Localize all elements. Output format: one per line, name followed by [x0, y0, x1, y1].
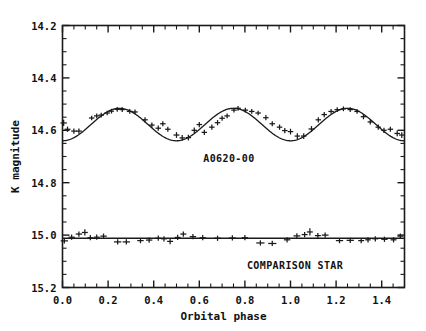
x-tick-label-0.6: 0.6: [190, 294, 209, 306]
light-curve-plot: 0.00.20.40.60.81.01.21.414.214.414.614.8…: [0, 0, 426, 331]
series-comparison: [61, 228, 404, 246]
x-tick-label-0: 0.0: [53, 294, 72, 306]
x-axis-title: Orbital phase: [180, 310, 266, 323]
y-tick-label-15: 15.0: [31, 229, 56, 241]
y-tick-label-14.6: 14.6: [31, 124, 56, 136]
y-tick-label-15.2: 15.2: [31, 282, 56, 294]
y-tick-label-14.8: 14.8: [31, 177, 56, 189]
y-axis-title: K magnitude: [9, 120, 22, 193]
y-tick-label-14.2: 14.2: [31, 20, 56, 32]
x-tick-label-1.4: 1.4: [372, 294, 391, 306]
annotation-comparison-label: COMPARISON STAR: [247, 260, 344, 271]
fit-curve-target: [63, 108, 405, 140]
series-target: [60, 106, 404, 141]
fit-curves: [63, 108, 405, 238]
x-tick-label-1: 1.0: [281, 294, 300, 306]
y-tick-label-14.4: 14.4: [31, 72, 56, 84]
x-tick-label-0.4: 0.4: [144, 294, 163, 306]
data-points: [60, 106, 404, 246]
x-tick-label-0.2: 0.2: [99, 294, 118, 306]
annotation-target-label: A0620-00: [203, 153, 254, 164]
figure-canvas: 0.00.20.40.60.81.01.21.414.214.414.614.8…: [0, 0, 426, 331]
x-tick-label-0.8: 0.8: [235, 294, 254, 306]
x-tick-label-1.2: 1.2: [327, 294, 346, 306]
